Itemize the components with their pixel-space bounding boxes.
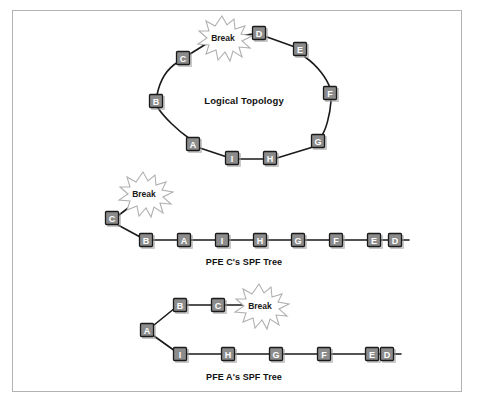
edge-A-I-tree-a xyxy=(154,336,175,351)
ring-node-C: C xyxy=(177,52,193,68)
ring-node-E-label: E xyxy=(297,45,303,55)
logical-topology-title: Logical Topology xyxy=(204,95,284,106)
pfe-c-spf-tree-caption: PFE C's SPF Tree xyxy=(206,257,282,267)
tree-a-node-H-label: H xyxy=(225,350,232,360)
diagram-canvas: Logical Topology Break C D xyxy=(0,0,490,408)
edge-E-F xyxy=(305,57,330,88)
tree-a-node-D-label: D xyxy=(384,350,391,360)
tree-c-node-I-label: I xyxy=(221,236,224,246)
tree-a-node-G: G xyxy=(270,348,286,364)
tree-c-node-D: D xyxy=(389,234,405,250)
ring-node-H-label: H xyxy=(267,154,274,164)
tree-a-node-I-label: I xyxy=(179,350,182,360)
edge-F-G xyxy=(321,101,331,137)
edge-I-A xyxy=(200,148,227,157)
ring-break-burst: Break xyxy=(198,16,252,61)
tree-a-node-E: E xyxy=(366,348,382,364)
tree-c-node-D-label: D xyxy=(392,236,399,246)
ring-node-I-label: I xyxy=(231,154,234,164)
ring-node-F-label: F xyxy=(327,89,333,99)
tree-a-node-I: I xyxy=(174,348,190,364)
tree-c-node-C: C xyxy=(106,212,122,228)
ring-node-C-label: C xyxy=(180,54,187,64)
tree-a-node-B: B xyxy=(174,299,190,315)
tree-a-node-G-label: G xyxy=(272,350,279,360)
tree-c-node-E: E xyxy=(368,234,384,250)
panel-pfe-a-spf-tree: Break A B C xyxy=(141,284,402,382)
tree-c-node-A-label: A xyxy=(181,236,188,246)
tree-c-node-A: A xyxy=(178,234,194,250)
ring-break-label: Break xyxy=(211,33,235,43)
tree-c-node-I: I xyxy=(216,234,232,250)
ring-node-A: A xyxy=(187,138,203,154)
panel-pfe-c-spf-tree: Break C B A xyxy=(106,172,410,267)
tree-a-node-E-label: E xyxy=(369,350,375,360)
tree-c-break-label: Break xyxy=(132,189,156,199)
ring-node-A-label: A xyxy=(190,140,197,150)
edge-C-B-tree-c xyxy=(118,225,142,238)
tree-c-node-H-label: H xyxy=(257,236,264,246)
panel-logical-topology: Logical Topology Break C D xyxy=(150,16,340,167)
tree-a-node-B-label: B xyxy=(177,301,184,311)
tree-a-node-F-label: F xyxy=(321,350,327,360)
tree-a-node-H: H xyxy=(222,348,238,364)
tree-c-nodes: C B A I xyxy=(106,212,405,250)
tree-a-break-burst: Break xyxy=(235,284,289,329)
ring-node-D-label: D xyxy=(256,29,263,39)
tree-c-node-F-label: F xyxy=(333,236,339,246)
tree-c-node-B-label: B xyxy=(143,236,150,246)
edge-C-break xyxy=(190,44,206,54)
pfe-a-spf-tree-caption: PFE A's SPF Tree xyxy=(206,372,282,382)
figure-container: Logical Topology Break C D xyxy=(0,0,490,408)
tree-a-node-F: F xyxy=(318,348,334,364)
ring-node-D: D xyxy=(253,27,269,43)
ring-node-B: B xyxy=(150,95,166,111)
edge-A-B-tree-a xyxy=(154,308,175,325)
tree-a-node-C-label: C xyxy=(215,301,222,311)
tree-c-break-burst: Break xyxy=(119,172,173,217)
ring-node-E: E xyxy=(294,43,310,59)
tree-c-node-H: H xyxy=(254,234,270,250)
ring-node-F: F xyxy=(324,87,340,103)
tree-a-node-A: A xyxy=(141,324,157,340)
tree-a-node-D: D xyxy=(381,348,397,364)
tree-c-node-G-label: G xyxy=(294,236,301,246)
edge-B-C xyxy=(157,62,178,95)
ring-node-G-label: G xyxy=(314,137,321,147)
tree-c-node-G: G xyxy=(292,234,308,250)
ring-node-G: G xyxy=(312,135,328,151)
tree-c-node-F: F xyxy=(330,234,346,250)
ring-node-I: I xyxy=(226,152,242,168)
tree-a-node-A-label: A xyxy=(144,326,151,336)
tree-c-node-C-label: C xyxy=(109,214,116,224)
ring-node-H: H xyxy=(264,152,280,168)
edge-D-E xyxy=(267,37,295,47)
tree-c-node-E-label: E xyxy=(371,236,377,246)
edge-A-B xyxy=(158,108,190,139)
tree-a-break-label: Break xyxy=(248,301,272,311)
tree-a-node-C: C xyxy=(212,299,228,315)
ring-node-B-label: B xyxy=(153,97,160,107)
edge-G-H xyxy=(277,147,313,158)
tree-c-node-B: B xyxy=(140,234,156,250)
